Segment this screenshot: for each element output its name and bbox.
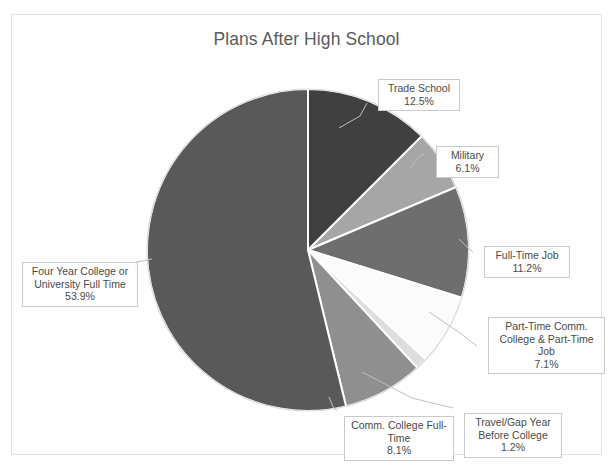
label-comm-college-line1: Comm. College Full- xyxy=(351,419,447,431)
label-military[interactable]: Military 6.1% xyxy=(436,146,499,178)
label-part-time-comm-college[interactable]: Part-Time Comm. College & Part-Time Job … xyxy=(488,317,605,374)
label-trade-school[interactable]: Trade School 12.5% xyxy=(378,79,460,111)
label-full-time-job[interactable]: Full-Time Job 11.2% xyxy=(484,246,570,278)
pie-slice-group xyxy=(147,89,469,411)
label-military-name: Military xyxy=(451,149,484,161)
pie-chart[interactable] xyxy=(12,15,603,456)
label-trade-school-name: Trade School xyxy=(388,82,450,94)
label-travel-gap-line2: Before College xyxy=(469,429,557,442)
label-military-pct: 6.1% xyxy=(441,162,494,175)
label-full-time-job-name: Full-Time Job xyxy=(495,249,558,261)
label-comm-college-pct: 8.1% xyxy=(349,444,449,457)
label-four-year-line2: University Full Time xyxy=(27,278,133,291)
label-part-time-line3: Job xyxy=(493,345,600,358)
label-four-year-pct: 53.9% xyxy=(27,290,133,303)
label-travel-gap-pct: 1.2% xyxy=(469,441,557,454)
label-four-year-line1: Four Year College or xyxy=(32,265,128,277)
label-travel-gap-year[interactable]: Travel/Gap Year Before College 1.2% xyxy=(464,413,562,458)
label-part-time-line1: Part-Time Comm. xyxy=(505,320,587,332)
label-trade-school-pct: 12.5% xyxy=(383,95,455,108)
label-part-time-pct: 7.1% xyxy=(493,358,600,371)
label-full-time-job-pct: 11.2% xyxy=(489,262,565,275)
label-comm-college-full-time[interactable]: Comm. College Full- Time 8.1% xyxy=(344,416,454,461)
label-travel-gap-line1: Travel/Gap Year xyxy=(475,416,551,428)
label-comm-college-line2: Time xyxy=(349,432,449,445)
label-part-time-line2: College & Part-Time xyxy=(493,333,600,346)
chart-frame: Plans After High School Trade School 12.… xyxy=(11,14,602,455)
label-four-year-college[interactable]: Four Year College or University Full Tim… xyxy=(22,262,138,307)
